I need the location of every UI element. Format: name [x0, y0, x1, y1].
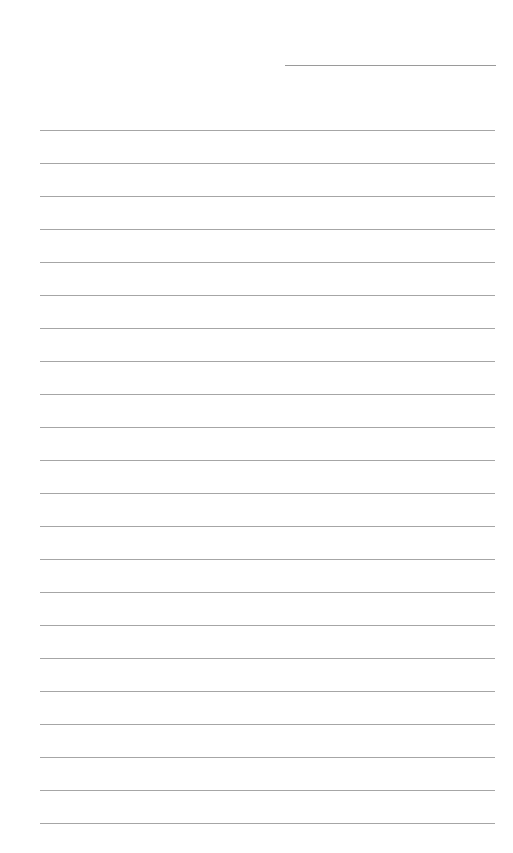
ruled-line	[40, 130, 495, 131]
ruled-line	[40, 625, 495, 626]
lined-paper-page	[0, 0, 513, 853]
ruled-line	[40, 361, 495, 362]
ruled-line	[40, 658, 495, 659]
ruled-line	[40, 592, 495, 593]
ruled-line	[40, 295, 495, 296]
ruled-line	[40, 262, 495, 263]
ruled-line	[40, 526, 495, 527]
ruled-line	[40, 460, 495, 461]
ruled-line	[40, 790, 495, 791]
ruled-line	[40, 559, 495, 560]
ruled-line	[40, 724, 495, 725]
ruled-line	[40, 196, 495, 197]
ruled-line	[40, 163, 495, 164]
header-blank-line	[285, 65, 496, 66]
ruled-line	[40, 229, 495, 230]
ruled-line	[40, 493, 495, 494]
ruled-line	[40, 427, 495, 428]
ruled-line	[40, 757, 495, 758]
ruled-line	[40, 823, 495, 824]
ruled-line	[40, 328, 495, 329]
ruled-line	[40, 691, 495, 692]
ruled-line	[40, 394, 495, 395]
